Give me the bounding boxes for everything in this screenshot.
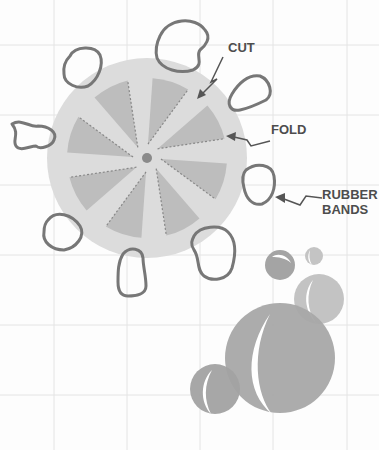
marble-left	[190, 364, 240, 414]
label-bands: BANDS	[322, 202, 369, 217]
rubber-band	[12, 122, 55, 149]
marble-small	[265, 250, 295, 280]
label-cut: CUT	[228, 40, 255, 55]
rubber-band	[44, 214, 82, 250]
diagram-canvas: CUT FOLD RUBBER BANDS	[0, 0, 379, 450]
rubber-band	[229, 76, 270, 111]
center-dot	[142, 153, 152, 163]
callout-rubber-bands: RUBBER BANDS	[275, 187, 378, 217]
marbles	[190, 247, 344, 414]
label-fold: FOLD	[271, 122, 306, 137]
paper-spinner-diagram: CUT FOLD RUBBER BANDS	[0, 0, 379, 450]
callout-cut: CUT	[197, 40, 255, 99]
marble-tiny	[305, 247, 323, 265]
marble-large	[225, 303, 335, 413]
label-rubber: RUBBER	[322, 187, 378, 202]
